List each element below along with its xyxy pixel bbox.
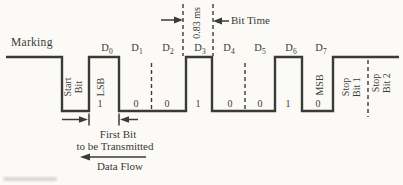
bit-value-d5: 0 bbox=[250, 98, 270, 109]
first-bit-arrow-left-icon bbox=[120, 116, 138, 122]
bit-time-label: Bit Time bbox=[231, 14, 270, 26]
bit-label-d5: D5 bbox=[247, 42, 273, 56]
bit-time-arrow-right-icon bbox=[161, 17, 183, 24]
bit-label-d6: D6 bbox=[278, 42, 304, 56]
bit-label-d1: D1 bbox=[124, 42, 150, 56]
bit-duration-label: 0.83 ms bbox=[192, 0, 202, 46]
stop-bit-2-label: Stop Bit 2 bbox=[371, 65, 393, 101]
bit-label-d4: D4 bbox=[216, 42, 242, 56]
data-flow-label: Data Flow bbox=[90, 160, 150, 172]
bit-value-d1: 0 bbox=[126, 98, 146, 109]
bit-label-d0: D0 bbox=[94, 42, 120, 56]
stop-bit-1-label: Stop Bit 1 bbox=[341, 69, 363, 105]
bit-value-d4: 0 bbox=[220, 98, 240, 109]
bit-value-d6: 1 bbox=[278, 98, 298, 109]
first-bit-arrow-right-icon bbox=[62, 116, 88, 122]
msb-label: MSB bbox=[315, 70, 325, 100]
first-bit-label-line1: First Bit bbox=[88, 128, 148, 140]
timing-diagram: Marking D0 D1 D2 D3 D4 D5 D6 D7 1 0 0 1 … bbox=[0, 0, 403, 185]
bit-label-d2: D2 bbox=[155, 42, 181, 56]
lsb-label: LSB bbox=[96, 72, 106, 102]
scan-artifact bbox=[3, 177, 57, 181]
bit-value-d2: 0 bbox=[157, 98, 177, 109]
marking-label: Marking bbox=[11, 36, 53, 48]
first-bit-label-line2: to be Transmitted bbox=[65, 140, 165, 152]
bit-value-d3: 1 bbox=[188, 98, 208, 109]
bit-label-d7: D7 bbox=[308, 42, 334, 56]
bit-time-arrow-left-icon bbox=[213, 18, 229, 25]
start-bit-label: Start Bit bbox=[63, 69, 85, 105]
